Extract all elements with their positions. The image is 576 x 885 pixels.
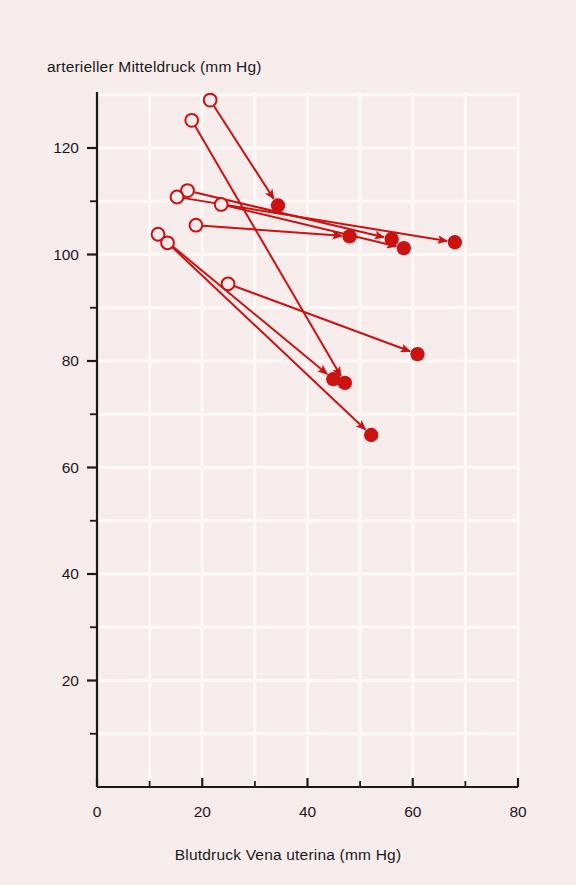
- y-tick-label: 120: [53, 139, 79, 157]
- y-tick-label: 60: [62, 459, 79, 477]
- y-tick-label: 40: [62, 565, 79, 583]
- open-circle-marker: [222, 277, 235, 290]
- chart-figure: arterieller Mitteldruck (mm Hg) Blutdruc…: [0, 0, 576, 885]
- open-circle-marker: [204, 94, 217, 107]
- filled-circle-marker: [364, 428, 378, 442]
- x-tick-label: 60: [404, 803, 421, 821]
- figure-background: [0, 0, 576, 885]
- x-tick-label: 80: [509, 803, 526, 821]
- filled-circle-marker: [338, 376, 352, 390]
- filled-circle-marker: [397, 241, 411, 255]
- filled-circle-marker: [385, 232, 399, 246]
- filled-circle-marker: [448, 235, 462, 249]
- y-tick-label: 20: [62, 672, 79, 690]
- open-circle-marker: [171, 191, 184, 204]
- y-axis-title: arterieller Mitteldruck (mm Hg): [47, 58, 262, 76]
- open-circle-marker: [161, 236, 174, 249]
- y-tick-label: 80: [62, 352, 79, 370]
- filled-circle-marker: [410, 347, 424, 361]
- filled-circle-marker: [342, 229, 356, 243]
- x-axis-title: Blutdruck Vena uterina (mm Hg): [175, 846, 402, 864]
- x-tick-label: 40: [299, 803, 316, 821]
- open-circle-marker: [215, 198, 228, 211]
- filled-circle-marker: [271, 198, 285, 212]
- open-circle-marker: [190, 219, 203, 232]
- x-tick-label: 20: [194, 803, 211, 821]
- scatter-plot-canvas: [0, 0, 576, 885]
- open-circle-marker: [185, 114, 198, 127]
- x-tick-label: 0: [93, 803, 102, 821]
- y-tick-label: 100: [53, 246, 79, 264]
